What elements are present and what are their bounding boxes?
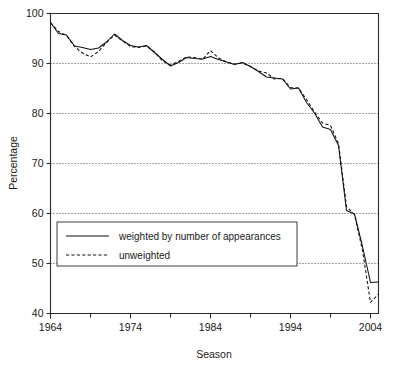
y-tick-label-40: 40: [32, 307, 44, 319]
y-tick-label-60: 60: [32, 207, 44, 219]
chart-legend: weighted by number of appearancesunweigh…: [57, 222, 297, 266]
y-tick-label-50: 50: [32, 257, 44, 269]
y-tick-label-100: 100: [26, 7, 44, 19]
legend-box: [57, 222, 297, 266]
x-axis-tick-labels: 19641974198419942004: [39, 321, 383, 333]
y-tick-label-80: 80: [32, 107, 44, 119]
chart-container: 405060708090100 19641974198419942004 wei…: [0, 0, 393, 366]
x-tick-label-1984: 1984: [199, 321, 223, 333]
x-tick-label-1964: 1964: [39, 321, 63, 333]
x-axis-ticks: [51, 314, 371, 319]
y-tick-label-70: 70: [32, 157, 44, 169]
y-axis-tick-labels: 405060708090100: [26, 7, 44, 319]
y-axis-ticks: [47, 14, 51, 314]
y-tick-label-90: 90: [32, 57, 44, 69]
legend-label-unweighted: unweighted: [119, 250, 170, 261]
x-tick-label-1994: 1994: [279, 321, 303, 333]
legend-label-weighted: weighted by number of appearances: [118, 231, 281, 242]
y-axis-title: Percentage: [7, 136, 19, 190]
x-tick-label-2004: 2004: [359, 321, 383, 333]
x-tick-label-1974: 1974: [119, 321, 143, 333]
x-axis-title: Season: [196, 348, 232, 360]
line-chart: 405060708090100 19641974198419942004 wei…: [0, 0, 393, 366]
